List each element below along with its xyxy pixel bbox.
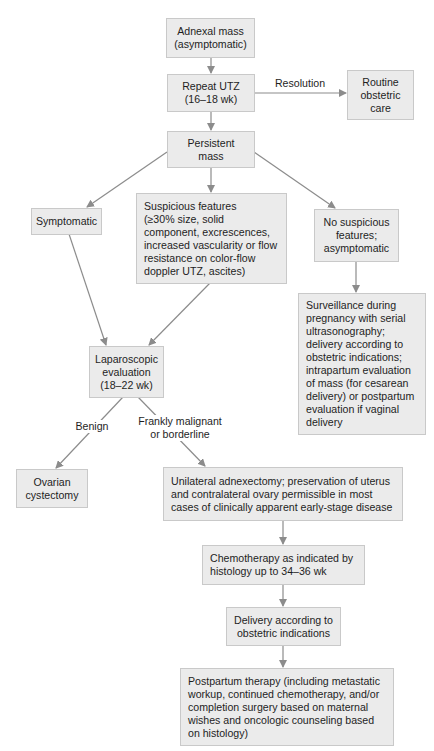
node-postpartum-therapy: Postpartum therapy (including metastatic… [180,668,394,746]
arrow-suspicious-to-laparoscopic [149,283,210,345]
node-laparoscopic-evaluation-text: Laparoscopic evaluation (18–22 wk) [95,353,158,392]
node-persistent-mass: Persistent mass [167,131,255,168]
node-routine-care: Routine obstetric care [347,70,414,120]
node-no-suspicious-features-text: No suspicious features; asymptomatic [324,216,390,255]
node-no-suspicious-features: No suspicious features; asymptomatic [314,209,399,262]
node-unilateral-adnexectomy: Unilateral adnexectomy; preservation of … [163,467,403,521]
node-laparoscopic-evaluation: Laparoscopic evaluation (18–22 wk) [89,346,164,398]
node-delivery: Delivery according to obstetric indicati… [226,607,341,646]
node-repeat-utz-text: Repeat UTZ (16–18 wk) [182,80,240,106]
node-surveillance-text: Surveillance during pregnancy with seria… [306,299,414,429]
node-adnexal-mass: Adnexal mass (asymptomatic) [166,18,255,58]
node-suspicious-features-text: Suspicious features (≥30% size, solid co… [144,200,277,278]
arrow-symptomatic-to-laparoscopic [69,234,106,345]
node-chemotherapy-text: Chemotherapy as indicated by histology u… [210,552,353,578]
node-unilateral-adnexectomy-text: Unilateral adnexectomy; preservation of … [171,475,392,514]
node-symptomatic-text: Symptomatic [36,215,97,228]
node-ovarian-cystectomy-text: Ovarian cystectomy [26,476,79,502]
node-surveillance: Surveillance during pregnancy with seria… [298,293,426,435]
node-symptomatic: Symptomatic [31,208,102,235]
node-adnexal-mass-text: Adnexal mass (asymptomatic) [174,25,246,51]
node-ovarian-cystectomy: Ovarian cystectomy [16,469,88,508]
node-routine-care-text: Routine obstetric care [360,76,400,115]
node-postpartum-therapy-text: Postpartum therapy (including metastatic… [188,675,380,740]
node-repeat-utz: Repeat UTZ (16–18 wk) [167,74,255,112]
node-delivery-text: Delivery according to obstetric indicati… [234,614,333,640]
node-persistent-mass-text: Persistent mass [187,137,234,163]
edge-label-benign: Benign [70,420,114,433]
node-suspicious-features: Suspicious features (≥30% size, solid co… [136,193,287,284]
node-chemotherapy: Chemotherapy as indicated by histology u… [202,545,365,585]
edge-label-resolution: Resolution [272,77,328,90]
edge-label-malignant: Frankly malignant or borderline [128,415,232,441]
